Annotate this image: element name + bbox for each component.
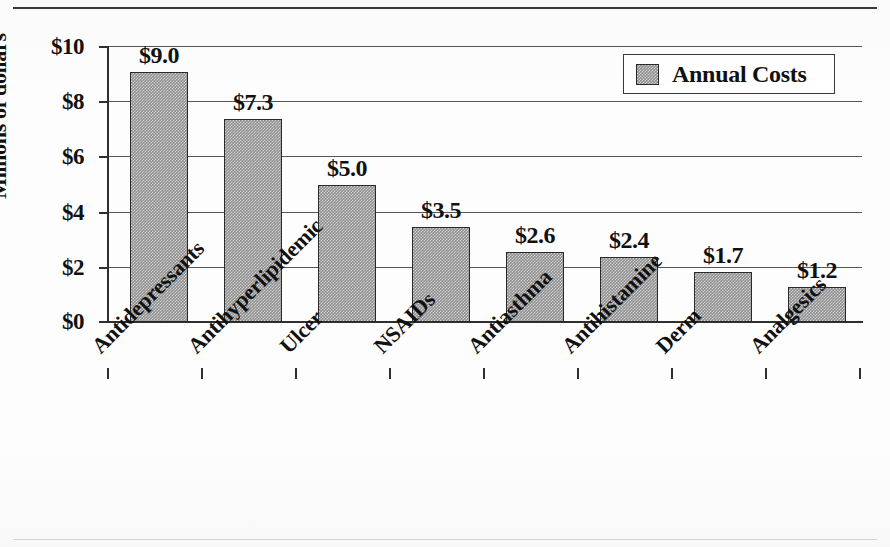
y-tick-label-2: $2 xyxy=(12,256,84,279)
bar-ulcer[interactable] xyxy=(318,185,376,322)
bar-value-label-derm: $1.7 xyxy=(683,243,763,267)
y-tick-label-4: $4 xyxy=(12,201,84,224)
y-tick-8 xyxy=(99,101,109,103)
x-category-label-ulcer: Ulcer xyxy=(276,306,327,357)
y-tick-2 xyxy=(99,267,109,269)
x-tick-2 xyxy=(295,368,297,379)
x-category-label-derm: Derm xyxy=(652,305,705,358)
x-tick-7 xyxy=(765,368,767,379)
bar-chart: Millions of dollars $10 $8 $6 $4 $2 xyxy=(0,0,890,547)
gridline-2 xyxy=(108,267,862,268)
y-tick-label-0: $0 xyxy=(12,310,84,333)
x-tick-5 xyxy=(577,368,579,379)
x-tick-3 xyxy=(389,368,391,379)
bar-value-label-antihyperlipidemic: $7.3 xyxy=(213,90,293,114)
y-tick-label-10: $10 xyxy=(12,35,84,58)
bar-value-label-antiasthma: $2.6 xyxy=(495,223,575,247)
x-tick-1 xyxy=(201,368,203,379)
y-axis-title: Millions of dollars xyxy=(0,0,11,281)
x-tick-0 xyxy=(107,368,109,379)
gridline-10 xyxy=(108,46,862,47)
gridline-4 xyxy=(108,212,862,213)
y-tick-label-8: $8 xyxy=(12,90,84,113)
x-tick-6 xyxy=(671,368,673,379)
x-tick-8 xyxy=(859,368,861,379)
bar-value-label-antihistamine: $2.4 xyxy=(589,228,669,252)
gridline-6 xyxy=(108,156,862,157)
bar-value-label-antidepressants: $9.0 xyxy=(119,43,199,67)
bar-value-label-ulcer: $5.0 xyxy=(307,156,387,180)
chart-legend[interactable]: Annual Costs xyxy=(623,54,835,94)
y-tick-6 xyxy=(99,156,109,158)
bar-derm[interactable] xyxy=(694,272,752,322)
x-tick-4 xyxy=(483,368,485,379)
y-tick-label-6: $6 xyxy=(12,145,84,168)
legend-label: Annual Costs xyxy=(672,62,806,86)
bar-value-label-nsaids: $3.5 xyxy=(401,198,481,222)
legend-swatch-icon xyxy=(636,64,659,85)
y-tick-10 xyxy=(99,46,109,48)
y-tick-4 xyxy=(99,212,109,214)
scanned-page: Millions of dollars $10 $8 $6 $4 $2 xyxy=(0,0,890,547)
